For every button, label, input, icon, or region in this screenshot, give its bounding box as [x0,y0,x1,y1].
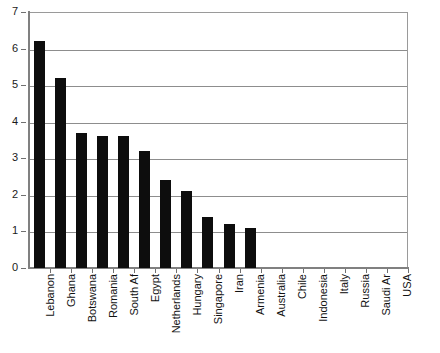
y-axis-tick-label: 2 [12,189,18,200]
x-axis-tick-mark [324,269,325,273]
x-axis-tick-mark [303,269,304,273]
y-axis-tick-mark [21,231,26,232]
x-axis-tick-mark [261,269,262,273]
bar [118,136,129,268]
y-axis-ticks: 01234567 [0,0,29,353]
x-axis-tick-label: Australia [276,274,287,317]
x-axis-tick-mark [408,269,409,273]
y-axis-tick-mark [21,122,26,123]
y-axis-tick-label: 4 [12,116,18,127]
x-axis-tick-label: Lebanon [45,274,56,317]
x-axis-tick-label: USA [402,274,413,297]
bar-chart: 01234567 LebanonGhanaBotswanaRomaniaSout… [0,0,440,353]
x-axis-tick-label: Iran [234,274,245,293]
x-axis-tick-label: Romania [108,274,119,318]
x-axis-tick-label: South Af [129,274,140,316]
x-axis-tick-mark [387,269,388,273]
bar [139,151,150,268]
x-axis-tick-label: Hungary [192,274,203,316]
bar [202,217,213,268]
bar-series [29,12,408,268]
y-axis-tick-label: 0 [12,262,18,273]
bar [76,133,87,268]
bar [55,78,66,268]
x-axis-tick-mark [366,269,367,273]
bar [97,136,108,268]
y-axis-tick-mark [21,49,26,50]
y-axis-tick-mark [21,268,26,269]
x-axis-tick-mark [240,269,241,273]
x-axis-tick-label: Egypt [150,274,161,302]
x-axis-tick-label: Saudi Ar [381,274,392,316]
x-axis-tick-mark [219,269,220,273]
y-axis-tick-mark [21,85,26,86]
bar [224,224,235,268]
x-axis-tick-label: Ghana [66,274,77,307]
x-axis-tick-label: Indonesia [318,274,329,322]
y-axis-tick-mark [21,195,26,196]
x-axis-tick-label: Armenia [255,274,266,315]
x-axis-labels: LebanonGhanaBotswanaRomaniaSouth AfEgypt… [29,274,408,353]
x-axis-tick-label: Chile [297,274,308,299]
bar [245,228,256,268]
x-axis-tick-label: Russia [360,274,371,308]
x-axis-tick-mark [113,269,114,273]
bar [160,180,171,268]
bar [34,41,45,268]
x-axis-tick-mark [50,269,51,273]
x-axis-tick-mark [176,269,177,273]
x-axis-tick-label: Italy [339,274,350,294]
x-axis-tick-label: Botswana [87,274,98,322]
y-axis-tick-label: 5 [12,79,18,90]
y-axis-tick-label: 7 [12,6,18,17]
x-axis-tick-label: Singapore [213,274,224,324]
x-axis-tick-mark [92,269,93,273]
y-axis-tick-label: 3 [12,152,18,163]
x-axis-tick-label: Netherlands [171,274,182,333]
x-axis-tick-mark [155,269,156,273]
y-axis-tick-label: 6 [12,43,18,54]
bar [181,191,192,268]
x-axis-tick-mark [134,269,135,273]
y-axis-tick-mark [21,12,26,13]
x-axis-tick-mark [282,269,283,273]
x-axis-tick-mark [197,269,198,273]
y-axis-tick-label: 1 [12,225,18,236]
x-axis-tick-mark [71,269,72,273]
x-axis-tick-mark [345,269,346,273]
y-axis-tick-mark [21,158,26,159]
